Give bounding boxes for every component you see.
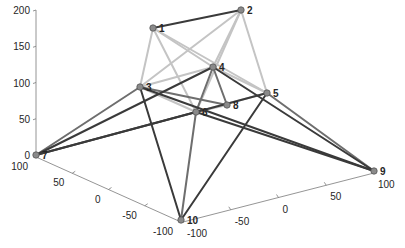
network-3d-plot: 050100150200100500-50-100-100-50050100 1… [0,0,405,248]
z-tick [33,46,36,47]
x-tick-label: 50 [53,177,65,188]
node-3 [137,84,143,90]
y-tick [277,195,279,198]
z-tick-label: 0 [24,150,30,161]
node-7 [33,152,39,158]
node-label: 3 [146,82,152,93]
x-tick [72,171,75,173]
node-label: 9 [380,166,386,177]
z-tick [33,10,36,11]
node-6 [193,109,199,115]
z-tick-label: 150 [13,41,30,52]
x-tick [109,188,112,190]
x-tick-label: 100 [11,161,28,172]
y-tick-label: -100 [187,228,207,239]
node-1 [150,25,156,31]
y-tick-label: 100 [378,179,395,190]
x-tick-label: -100 [153,226,173,237]
y-tick [229,207,231,210]
node-label: 1 [159,23,165,34]
z-tick [33,119,36,120]
node-label: 8 [233,100,239,111]
z-tick [33,83,36,84]
node-label: 2 [247,5,253,16]
z-tick-label: 100 [13,78,30,89]
y-tick-label: -50 [235,216,250,227]
node-9 [371,168,377,174]
y-tick-label: 0 [283,204,289,215]
edge-5-9 [267,93,374,171]
edge-6-10 [181,112,196,220]
node-4 [210,64,216,70]
z-tick-label: 200 [13,5,30,16]
edge-6-9 [196,112,374,171]
y-tick [324,182,326,185]
x-tick-label: -50 [122,210,137,221]
x-tick [145,204,148,206]
axes: 050100150200100500-50-100-100-50050100 [11,5,395,239]
node-label: 7 [42,150,48,161]
node-2 [238,7,244,13]
z-tick-label: 50 [19,114,31,125]
node-8 [224,102,230,108]
edge-7-4 [36,67,213,155]
node-label: 5 [273,88,279,99]
edge-7-3 [36,87,140,155]
y-tick-label: 50 [330,191,342,202]
node-label: 6 [202,107,208,118]
node-5 [264,90,270,96]
edge-4-9 [213,67,374,171]
node-10 [178,217,184,223]
node-label: 4 [219,62,225,73]
x-tick-label: 0 [95,194,101,205]
node-label: 10 [187,215,199,226]
edge-3-10 [140,87,181,220]
